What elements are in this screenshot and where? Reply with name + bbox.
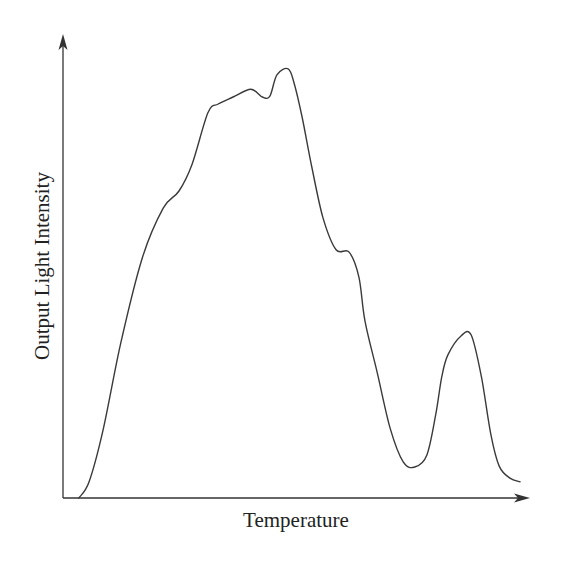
x-axis-label: Temperature	[63, 508, 529, 533]
y-axis	[59, 34, 68, 498]
glow-curve-line	[79, 68, 520, 498]
glow-curve-chart	[0, 0, 562, 565]
y-axis-label: Output Light Intensity	[30, 172, 55, 360]
x-axis	[63, 494, 530, 503]
